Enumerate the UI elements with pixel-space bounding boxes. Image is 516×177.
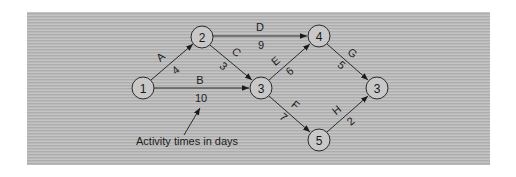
activity-H-label: H: [330, 103, 344, 117]
activity-A-label: A: [154, 50, 168, 64]
node-4: 4: [308, 25, 330, 47]
edge-C: [210, 45, 252, 80]
node-3-middle-label: 3: [258, 82, 265, 96]
activity-F-time: 7: [277, 110, 289, 123]
activity-A-time: 4: [169, 63, 181, 76]
node-5-label: 5: [316, 134, 323, 148]
node-3-middle: 3: [250, 77, 272, 99]
activity-G-label: G: [345, 46, 359, 61]
annotation-text: Activity times in days: [136, 135, 239, 147]
activity-H-time: 2: [344, 114, 356, 127]
activity-C-time: 3: [217, 59, 229, 72]
activity-D-time: 9: [258, 39, 264, 51]
activity-B-time: 10: [195, 92, 207, 104]
node-1: 1: [132, 77, 154, 99]
node-2: 2: [191, 26, 213, 48]
network-diagram: 1 2 3 4 3 5 A 4 B 10 C 3 D 9 E 6 F 7 G 5…: [0, 0, 516, 177]
edge-H: [327, 96, 368, 132]
node-4-label: 4: [316, 30, 323, 44]
activity-E-label: E: [269, 54, 282, 68]
node-2-label: 2: [199, 31, 206, 45]
node-5: 5: [308, 129, 330, 151]
node-3-right-label: 3: [374, 82, 381, 96]
activity-C-label: C: [230, 45, 244, 59]
activity-E-time: 6: [283, 64, 295, 77]
activity-B-label: B: [196, 74, 203, 86]
edge-A: [151, 44, 193, 80]
activity-G-time: 5: [335, 58, 347, 71]
node-3-right: 3: [366, 77, 388, 99]
node-1-label: 1: [140, 82, 147, 96]
activity-F-label: F: [289, 98, 302, 112]
annotation-arrow: [184, 108, 200, 135]
activity-D-label: D: [256, 21, 264, 33]
